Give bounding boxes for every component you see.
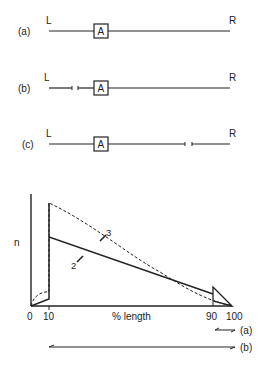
x-tick-label-90: 90 bbox=[206, 311, 218, 322]
x-tick-label-100: 100 bbox=[226, 311, 243, 322]
curve-2-line bbox=[31, 203, 213, 306]
x-tick-label-10: 10 bbox=[43, 311, 55, 322]
range-a-label: (a) bbox=[240, 325, 252, 336]
y-axis-label: n bbox=[14, 237, 20, 248]
row-c-left-end: L bbox=[46, 128, 52, 139]
row-a-right-end: R bbox=[229, 15, 236, 26]
row-a: (a) L R A bbox=[18, 15, 236, 38]
row-b-box-label: A bbox=[98, 83, 105, 94]
range-b-label: (b) bbox=[240, 342, 252, 353]
row-a-left-end: L bbox=[46, 15, 52, 26]
row-b-right-end: R bbox=[229, 72, 236, 83]
row-c-label: (c) bbox=[22, 139, 34, 150]
row-b-left-end: L bbox=[44, 72, 50, 83]
row-a-label: (a) bbox=[18, 26, 30, 37]
curve-2-pointer bbox=[77, 256, 83, 262]
curve-2-label: 2 bbox=[71, 260, 76, 271]
row-c-right-end: R bbox=[229, 128, 236, 139]
row-c-box-label: A bbox=[98, 139, 105, 150]
x-tick-label-0: 0 bbox=[27, 311, 33, 322]
row-c: (c) L R A bbox=[22, 128, 236, 151]
diagram-canvas: (a) L R A (b) L R A (c) L R A n bbox=[0, 0, 265, 366]
curve-3-label: 3 bbox=[106, 227, 111, 238]
distribution-chart: n 3 2 0 10 % length 90 100 (a) (b) bbox=[14, 194, 252, 353]
row-a-box-label: A bbox=[98, 26, 105, 37]
row-b-label: (b) bbox=[18, 83, 30, 94]
row-b: (b) L R A bbox=[18, 72, 236, 95]
x-axis-label: % length bbox=[112, 311, 151, 322]
